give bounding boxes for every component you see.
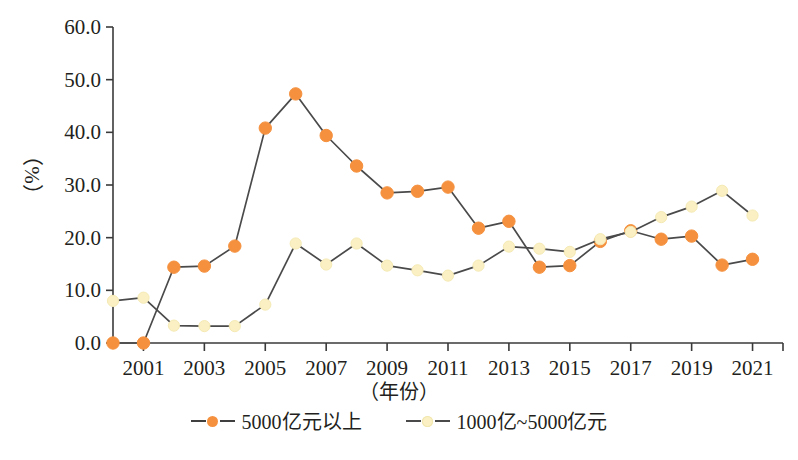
data-point (107, 337, 119, 349)
data-point (168, 261, 180, 273)
data-point (533, 261, 545, 273)
legend-label-series1: 5000亿元以上 (242, 406, 362, 435)
data-point (655, 233, 667, 245)
data-point (747, 210, 758, 221)
data-point (138, 292, 149, 303)
data-point (534, 243, 545, 254)
data-point (321, 259, 332, 270)
data-point (350, 160, 362, 172)
data-point (503, 215, 515, 227)
y-tick-label: 60.0 (64, 15, 101, 39)
data-point (381, 187, 393, 199)
data-point (442, 270, 453, 281)
legend-marker-series2 (406, 414, 450, 428)
data-point (351, 238, 362, 249)
y-tick-label: 20.0 (64, 226, 101, 250)
chart-figure: 0.010.020.030.040.050.060.02001200320052… (0, 0, 798, 460)
y-tick-label: 0.0 (75, 331, 101, 355)
data-point (472, 222, 484, 234)
data-point (107, 295, 118, 306)
y-tick-label: 10.0 (64, 278, 101, 302)
y-tick-label: 40.0 (64, 120, 101, 144)
data-point (442, 181, 454, 193)
data-point (290, 238, 301, 249)
y-axis-title: （%） (14, 130, 54, 220)
data-point (716, 259, 728, 271)
data-point (564, 246, 575, 257)
data-point (229, 321, 240, 332)
data-point (473, 260, 484, 271)
legend-marker-series1 (191, 414, 235, 428)
chart-legend: 5000亿元以上 1000亿~5000亿元 (0, 406, 798, 435)
data-point (168, 320, 179, 331)
data-point (259, 122, 271, 134)
data-point (625, 226, 636, 237)
legend-label-series2: 1000亿~5000亿元 (457, 406, 608, 435)
data-point (503, 241, 514, 252)
x-axis-title: （年份） (0, 376, 798, 405)
data-point (411, 185, 423, 197)
series-2 (107, 185, 758, 332)
data-point (685, 230, 697, 242)
data-point (198, 260, 210, 272)
data-point (686, 201, 697, 212)
legend-item-series2[interactable]: 1000亿~5000亿元 (406, 406, 608, 435)
data-point (717, 185, 728, 196)
legend-item-series1[interactable]: 5000亿元以上 (191, 406, 362, 435)
data-point (199, 321, 210, 332)
data-point (656, 212, 667, 223)
data-point (320, 129, 332, 141)
y-axis-title-text: （%） (19, 145, 49, 205)
y-tick-label: 50.0 (64, 68, 101, 92)
data-point (412, 265, 423, 276)
data-point (595, 234, 606, 245)
data-point (746, 253, 758, 265)
data-point (564, 259, 576, 271)
y-axis-ticks: 0.010.020.030.040.050.060.0 (64, 15, 113, 355)
data-point (290, 88, 302, 100)
data-point (382, 260, 393, 271)
y-tick-label: 30.0 (64, 173, 101, 197)
data-point (229, 240, 241, 252)
x-axis-ticks: 2001200320052007200920112013201520172019… (122, 343, 783, 380)
series-line (113, 191, 753, 326)
data-point (260, 299, 271, 310)
data-point (137, 337, 149, 349)
